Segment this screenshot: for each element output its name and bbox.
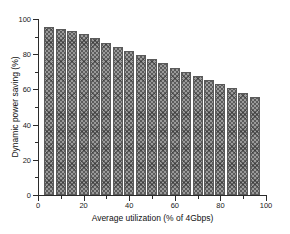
bar (124, 51, 134, 195)
bar (204, 80, 214, 195)
x-tick-label: 0 (36, 201, 40, 210)
y-tick-minor (35, 72, 38, 73)
bar (56, 29, 66, 195)
y-tick-major (33, 54, 38, 55)
bar (67, 31, 77, 195)
x-tick-label: 60 (171, 201, 179, 210)
y-tick-minor (35, 107, 38, 108)
y-tick-major (33, 19, 38, 20)
y-tick-minor (35, 177, 38, 178)
x-tick-minor (61, 196, 62, 199)
y-axis-title: Dynamic power saving (%) (10, 19, 22, 195)
bar (250, 97, 260, 195)
bar (90, 38, 100, 195)
bar (113, 47, 123, 195)
x-tick-label: 100 (260, 201, 273, 210)
x-tick-minor (198, 196, 199, 199)
x-tick-minor (106, 196, 107, 199)
y-tick-major (33, 160, 38, 161)
bar (79, 34, 89, 195)
y-tick-label: 0 (27, 191, 31, 200)
x-axis-title: Average utilization (% of 4Gbps) (38, 213, 267, 223)
chart-figure: 020406080100020406080100 Average utiliza… (0, 0, 290, 234)
x-tick-minor (243, 196, 244, 199)
bar (44, 27, 54, 195)
y-tick-major (33, 125, 38, 126)
x-tick-label: 20 (79, 201, 87, 210)
bar (101, 43, 111, 195)
bar (238, 93, 248, 195)
y-tick-label: 40 (23, 120, 31, 129)
y-tick-label: 20 (23, 155, 31, 164)
bar (215, 84, 225, 195)
bar (193, 76, 203, 195)
x-tick-minor (152, 196, 153, 199)
y-tick-minor (35, 37, 38, 38)
y-tick-label: 60 (23, 85, 31, 94)
y-tick-major (33, 195, 38, 196)
bar (170, 68, 180, 195)
bar (181, 72, 191, 195)
y-tick-major (33, 89, 38, 90)
y-tick-label: 80 (23, 50, 31, 59)
bar (147, 59, 157, 195)
y-tick-minor (35, 142, 38, 143)
x-tick-label: 40 (125, 201, 133, 210)
bar (136, 55, 146, 195)
bar (158, 63, 168, 195)
bar (227, 88, 237, 195)
y-axis-line (38, 19, 39, 196)
x-tick-label: 80 (216, 201, 224, 210)
